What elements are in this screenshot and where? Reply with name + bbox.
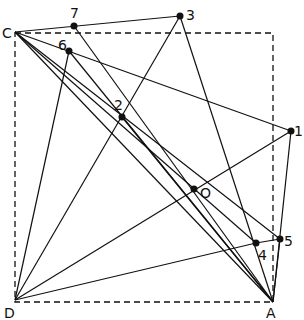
- point-label: A: [266, 305, 276, 320]
- point-label: D: [4, 305, 15, 320]
- line-6-D: [15, 51, 69, 300]
- line-4-5: [256, 239, 280, 243]
- point-D: D: [4, 305, 15, 320]
- point-marker: [191, 186, 198, 193]
- point-6: 6: [58, 37, 73, 55]
- point-marker: [177, 13, 184, 20]
- line-4-D: [15, 243, 256, 300]
- line-C-1: [15, 32, 291, 131]
- point-label: 4: [258, 247, 267, 263]
- line-5-A: [273, 239, 280, 302]
- connecting-lines: [15, 16, 291, 302]
- point-4: 4: [253, 240, 268, 264]
- point-3: 3: [177, 7, 195, 23]
- point-marker: [277, 236, 284, 243]
- point-label: 7: [70, 5, 79, 21]
- point-label: 2: [114, 97, 123, 113]
- geometry-diagram: CDA76312O45: [0, 0, 304, 320]
- point-label: 3: [186, 7, 195, 23]
- line-C-3: [15, 16, 180, 32]
- point-2: 2: [114, 97, 126, 121]
- point-label: 5: [284, 233, 293, 249]
- line-C-5: [15, 32, 280, 239]
- line-2-A: [122, 117, 273, 302]
- point-marker: [71, 23, 78, 30]
- point-marker: [253, 240, 260, 247]
- line-C-A: [15, 32, 273, 302]
- point-label: C: [2, 25, 12, 41]
- line-7-A: [74, 26, 273, 302]
- point-C: C: [2, 25, 12, 41]
- point-label: O: [200, 185, 211, 201]
- point-A: A: [266, 305, 276, 320]
- point-label: 6: [58, 37, 67, 53]
- point-O: O: [191, 185, 212, 201]
- point-label: 1: [294, 123, 303, 139]
- labeled-points: CDA76312O45: [2, 5, 303, 320]
- point-marker: [119, 114, 126, 121]
